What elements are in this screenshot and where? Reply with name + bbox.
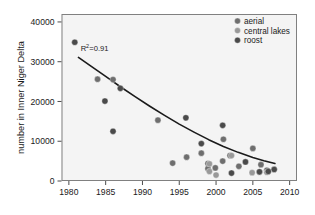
data-point <box>258 162 264 168</box>
x-tick-label: 1980 <box>59 187 78 197</box>
data-point <box>220 122 226 128</box>
data-point <box>94 76 100 82</box>
x-tick-label: 2000 <box>206 187 225 197</box>
data-point <box>198 150 204 156</box>
data-point <box>212 165 218 171</box>
r-squared-value: =0.91 <box>89 44 108 53</box>
legend-label-central-lakes: central lakes <box>244 27 290 36</box>
data-point <box>271 166 277 172</box>
data-point <box>155 117 161 123</box>
x-tick-label: 1990 <box>133 187 152 197</box>
data-point <box>228 170 234 176</box>
data-point <box>220 158 226 164</box>
legend-label-aerial: aerial <box>244 17 264 26</box>
data-point <box>206 168 212 174</box>
data-point <box>198 141 204 147</box>
legend-marker-aerial <box>235 18 241 24</box>
x-tick-label: 2005 <box>243 187 262 197</box>
data-point <box>72 39 78 45</box>
data-point <box>242 159 248 165</box>
y-tick-label: 30000 <box>31 57 55 67</box>
data-point <box>213 172 219 178</box>
data-point <box>220 136 226 142</box>
x-tick-label: 1985 <box>96 187 115 197</box>
legend-label-roost: roost <box>244 36 263 45</box>
data-point <box>265 168 271 174</box>
annotation-r-squared: R2=0.91 <box>81 43 109 53</box>
y-tick-label: 40000 <box>31 17 55 27</box>
data-point <box>110 128 116 134</box>
data-point <box>256 169 262 175</box>
x-tick-label: 2010 <box>280 187 299 197</box>
y-axis-title: number in Inner Niger Delta <box>16 40 26 154</box>
data-point <box>184 154 190 160</box>
y-tick-label: 20000 <box>31 97 55 107</box>
data-point <box>170 160 176 166</box>
x-axis: 1980198519901995200020052010 <box>59 181 299 197</box>
data-point <box>102 98 108 104</box>
figure-container: 010000200003000040000number in Inner Nig… <box>0 0 315 215</box>
y-tick-label: 0 <box>50 176 55 186</box>
data-point <box>110 77 116 83</box>
data-point <box>250 145 256 151</box>
x-tick-label: 1995 <box>170 187 189 197</box>
y-tick-label: 10000 <box>31 136 55 146</box>
data-point <box>206 161 212 167</box>
scatter-plot: 010000200003000040000number in Inner Nig… <box>0 0 315 215</box>
data-point <box>183 115 189 121</box>
legend-marker-roost <box>235 37 241 43</box>
data-point <box>117 85 123 91</box>
y-axis: 010000200003000040000 <box>31 17 62 186</box>
legend-marker-central-lakes <box>235 28 241 34</box>
data-point <box>249 170 255 176</box>
data-point <box>228 152 234 158</box>
data-point <box>236 163 242 169</box>
